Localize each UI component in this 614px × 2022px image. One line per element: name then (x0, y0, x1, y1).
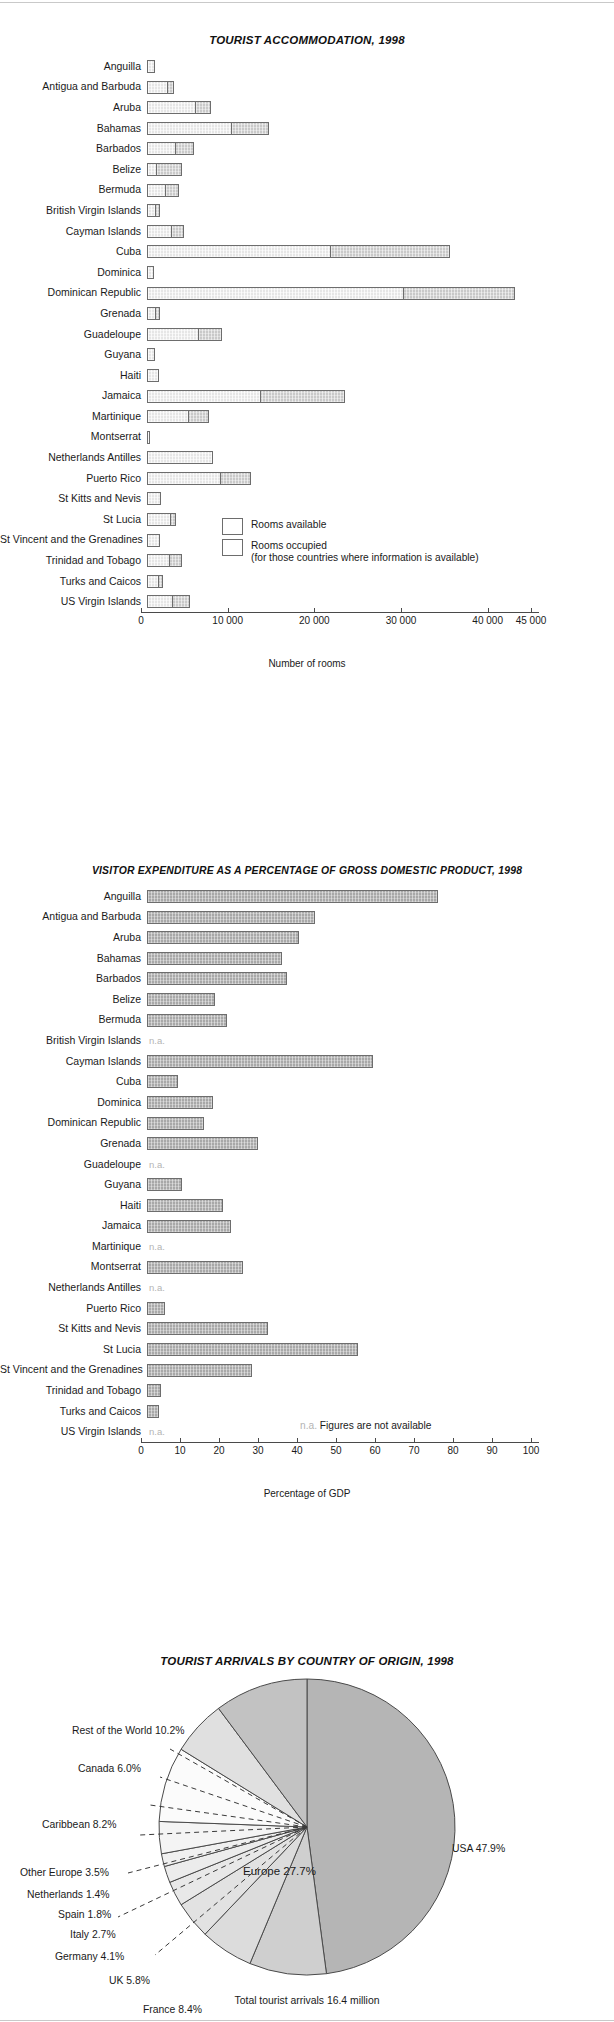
na-value: n.a. (149, 1425, 165, 1438)
table-row: Dominica (0, 262, 614, 283)
legend-label: Rooms available (251, 518, 326, 531)
pie-label-spain: Spain 1.8% (58, 1909, 111, 1920)
bar-gdp-percentage (147, 931, 299, 944)
legend-swatch (222, 539, 243, 556)
axis-tick (401, 608, 402, 613)
table-row: Bahamas (0, 118, 614, 139)
table-row: Guadeloupen.a. (0, 1154, 614, 1175)
bar-track (147, 1216, 614, 1237)
bar-rooms-occupied (147, 101, 196, 114)
axis-line (141, 1442, 539, 1443)
bar-rooms-occupied (147, 595, 173, 608)
bar-track (147, 303, 614, 324)
table-row: US Virgin Islands (0, 591, 614, 612)
category-label-aruba: Aruba (0, 102, 147, 113)
category-label-dominica: Dominica (0, 1097, 147, 1108)
table-row: Cayman Islands (0, 1051, 614, 1072)
bar-track (147, 138, 614, 159)
table-row: Grenada (0, 303, 614, 324)
axis-tick (228, 608, 229, 613)
category-label-netherlands-antilles: Netherlands Antilles (0, 452, 147, 463)
bar-gdp-percentage (147, 993, 215, 1006)
bar-track (147, 1360, 614, 1381)
bar-rooms-occupied (147, 348, 155, 361)
bar-gdp-percentage (147, 952, 282, 965)
bar-rooms-occupied (147, 225, 172, 238)
category-label-martinique: Martinique (0, 411, 147, 422)
category-label-st-lucia: St Lucia (0, 514, 147, 525)
category-label-puerto-rico: Puerto Rico (0, 473, 147, 484)
bar-track (147, 344, 614, 365)
table-row: Cuba (0, 241, 614, 262)
bar-track (147, 1071, 614, 1092)
bar-track (147, 468, 614, 489)
category-label-montserrat: Montserrat (0, 1261, 147, 1272)
category-label-martinique: Martinique (0, 1241, 147, 1252)
category-label-bermuda: Bermuda (0, 1014, 147, 1025)
legend-item: Rooms occupied(for those countries where… (222, 539, 479, 564)
category-label-cuba: Cuba (0, 246, 147, 257)
axis-tick (375, 1438, 376, 1443)
bar-gdp-percentage (147, 1220, 231, 1233)
category-label-belize: Belize (0, 994, 147, 1005)
axis-tick-label: 30 000 (386, 615, 417, 626)
na-value: n.a. (149, 1240, 165, 1253)
bar-track: n.a. (147, 1236, 614, 1257)
category-label-cayman-islands: Cayman Islands (0, 1056, 147, 1067)
bar-rooms-occupied (147, 184, 166, 197)
legend-sublabel: (for those countries where information i… (251, 552, 479, 564)
category-label-cuba: Cuba (0, 1076, 147, 1087)
bar-rooms-occupied (147, 369, 159, 382)
table-row: Puerto Rico (0, 1298, 614, 1319)
bar-rooms-occupied (147, 513, 171, 526)
table-row: Dominican Republic (0, 283, 614, 304)
category-label-st-lucia: St Lucia (0, 1344, 147, 1355)
axis-tick-label: 50 (330, 1445, 341, 1456)
bar-rooms-occupied (147, 431, 150, 444)
bar-rooms-occupied (147, 163, 157, 176)
table-row: Netherlands Antilles (0, 447, 614, 468)
legend-item: Rooms available (222, 518, 479, 535)
bar-rooms-occupied (147, 390, 261, 403)
category-label-grenada: Grenada (0, 1138, 147, 1149)
table-row: Puerto Rico (0, 468, 614, 489)
category-label-barbados: Barbados (0, 143, 147, 154)
bar-rooms-occupied (147, 245, 331, 258)
table-row: Turks and Caicos (0, 571, 614, 592)
pie-label-caribbean: Caribbean 8.2% (42, 1819, 117, 1830)
bar-gdp-percentage (147, 1302, 165, 1315)
table-row: St Vincent and the Grenadines (0, 1360, 614, 1381)
table-row: Belize (0, 989, 614, 1010)
bar-track (147, 927, 614, 948)
table-row: British Virgin Islands (0, 200, 614, 221)
table-row: Guyana (0, 344, 614, 365)
category-label-aruba: Aruba (0, 932, 147, 943)
axis-tick (531, 608, 532, 613)
top-rule (0, 2, 614, 3)
pie-group-label-europe: Europe 27.7% (243, 1865, 316, 1877)
bar-rooms-occupied (147, 492, 161, 505)
table-row: Bermuda (0, 180, 614, 201)
axis-tick-label: 80 (447, 1445, 458, 1456)
category-label-anguilla: Anguilla (0, 61, 147, 72)
axis-tick-label: 20 000 (299, 615, 330, 626)
bar-track (147, 1051, 614, 1072)
category-label-turks-and-caicos: Turks and Caicos (0, 1406, 147, 1417)
category-label-trinidad-and-tobago: Trinidad and Tobago (0, 1385, 147, 1396)
category-label-cayman-islands: Cayman Islands (0, 226, 147, 237)
bar-rooms-occupied (147, 307, 156, 320)
chart-visitor-expenditure-gdp: VISITOR EXPENDITURE AS A PERCENTAGE OF G… (0, 865, 614, 1499)
axis-tick (414, 1438, 415, 1443)
category-label-dominican-republic: Dominican Republic (0, 1117, 147, 1128)
axis-tick (141, 608, 142, 613)
bar-rooms-occupied (147, 204, 156, 217)
pie-slice-usa (307, 1679, 455, 1974)
table-row: Belize (0, 159, 614, 180)
axis-tick (219, 1438, 220, 1443)
table-row: Anguilla (0, 56, 614, 77)
bar-track (147, 200, 614, 221)
bar-track (147, 1380, 614, 1401)
chart1-title: TOURIST ACCOMMODATION, 1998 (0, 34, 614, 46)
bar-rooms-occupied (147, 472, 221, 485)
bar-track (147, 1401, 614, 1422)
